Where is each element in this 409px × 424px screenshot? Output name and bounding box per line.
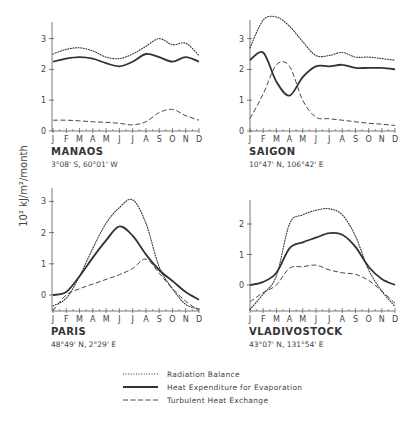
station-coordinates: 10°47' N, 106°42' E xyxy=(249,160,324,169)
month-label: A xyxy=(143,315,149,324)
month-label: A xyxy=(287,135,293,144)
month-label: J xyxy=(117,135,120,144)
month-label: F xyxy=(64,315,69,324)
y-tick-label: 3 xyxy=(239,35,244,44)
month-label: D xyxy=(392,315,398,324)
month-label: J xyxy=(51,315,54,324)
series-solid xyxy=(53,226,199,299)
station-coordinates: 48°49' N, 2°29' E xyxy=(51,340,116,349)
month-label: A xyxy=(287,315,293,324)
month-label: M xyxy=(76,315,83,324)
panel-vladivostock: 012JFMAMJJASONDVLADIVOSTOCK43°07' N, 131… xyxy=(239,200,398,349)
month-label: D xyxy=(196,135,202,144)
month-label: J xyxy=(327,315,330,324)
month-label: O xyxy=(365,135,371,144)
station-coordinates: 43°07' N, 131°54' E xyxy=(249,340,324,349)
month-label: J xyxy=(314,315,317,324)
month-label: N xyxy=(183,315,189,324)
legend-label: Radiation Balance xyxy=(167,370,240,379)
month-label: N xyxy=(379,315,385,324)
month-label: S xyxy=(353,315,358,324)
y-tick-label: 2 xyxy=(41,65,46,74)
y-axis-label: 10² kJ/m²/month xyxy=(18,145,29,227)
climate-figure: 0123JFMAMJJASONDMANAOS3°08' S, 60°01' W0… xyxy=(0,0,409,424)
station-name: SAIGON xyxy=(249,146,296,157)
month-label: D xyxy=(196,315,202,324)
y-tick-label: 1 xyxy=(41,96,46,105)
y-tick-label: 1 xyxy=(41,260,46,269)
month-label: S xyxy=(157,135,162,144)
month-label: M xyxy=(76,135,83,144)
legend: Radiation BalanceHeat Expenditure for Ev… xyxy=(123,370,302,405)
y-tick-label: 2 xyxy=(41,229,46,238)
month-label: M xyxy=(103,315,110,324)
month-label: S xyxy=(157,315,162,324)
month-label: F xyxy=(64,135,69,144)
month-label: J xyxy=(248,315,251,324)
month-label: F xyxy=(261,315,266,324)
y-tick-label: 3 xyxy=(41,197,46,206)
month-label: A xyxy=(340,315,346,324)
month-label: M xyxy=(273,135,280,144)
series-dotted xyxy=(53,199,199,309)
panel-manaos: 0123JFMAMJJASONDMANAOS3°08' S, 60°01' W xyxy=(41,22,202,169)
month-label: S xyxy=(353,135,358,144)
month-label: J xyxy=(130,315,133,324)
month-label: J xyxy=(51,135,54,144)
month-label: F xyxy=(261,135,266,144)
month-label: D xyxy=(392,135,398,144)
station-name: MANAOS xyxy=(51,146,104,157)
panel-paris: 0123JFMAMJJASONDPARIS48°49' N, 2°29' E xyxy=(41,188,202,349)
y-tick-label: 1 xyxy=(239,96,244,105)
series-dotted xyxy=(250,209,395,310)
series-dotted xyxy=(250,16,395,60)
y-tick-label: 2 xyxy=(239,65,244,74)
month-label: A xyxy=(90,135,96,144)
month-label: A xyxy=(143,135,149,144)
month-label: J xyxy=(327,135,330,144)
month-label: N xyxy=(183,135,189,144)
series-dashed xyxy=(53,109,199,125)
month-label: J xyxy=(130,135,133,144)
station-coordinates: 3°08' S, 60°01' W xyxy=(51,160,118,169)
month-label: M xyxy=(103,135,110,144)
y-tick-label: 0 xyxy=(239,127,244,136)
month-label: M xyxy=(273,315,280,324)
month-label: O xyxy=(169,315,175,324)
y-tick-label: 0 xyxy=(41,291,46,300)
station-name: VLADIVOSTOCK xyxy=(249,326,343,337)
month-label: M xyxy=(299,135,306,144)
series-solid xyxy=(250,233,395,285)
series-dotted xyxy=(53,39,199,59)
month-label: J xyxy=(248,135,251,144)
y-tick-label: 1 xyxy=(239,251,244,260)
y-tick-label: 2 xyxy=(239,220,244,229)
month-label: N xyxy=(379,135,385,144)
month-label: A xyxy=(90,315,96,324)
y-tick-label: 3 xyxy=(41,35,46,44)
legend-label: Heat Expenditure for Evaporation xyxy=(167,383,302,392)
month-label: A xyxy=(340,135,346,144)
y-tick-label: 0 xyxy=(239,281,244,290)
legend-label: Turbulent Heat Exchange xyxy=(166,396,268,405)
station-name: PARIS xyxy=(51,326,86,337)
month-label: O xyxy=(365,315,371,324)
panel-saigon: 0123JFMAMJJASONDSAIGON10°47' N, 106°42' … xyxy=(239,16,398,169)
month-label: O xyxy=(169,135,175,144)
y-tick-label: 0 xyxy=(41,127,46,136)
series-solid xyxy=(53,54,199,66)
month-label: J xyxy=(117,315,120,324)
month-label: M xyxy=(299,315,306,324)
month-label: J xyxy=(314,135,317,144)
